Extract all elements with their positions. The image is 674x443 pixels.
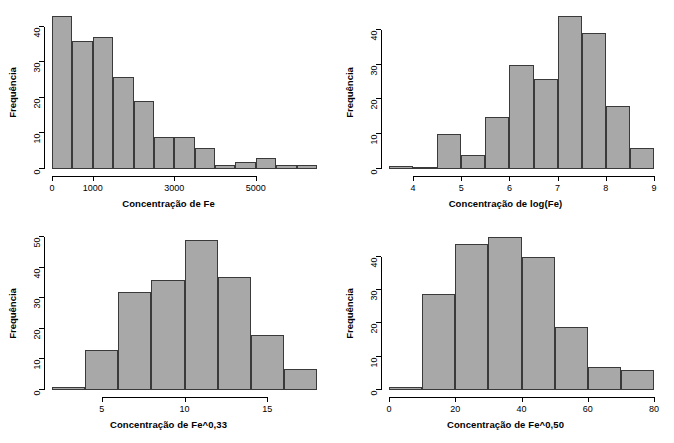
y-axis-tick-label: 0 [33,170,42,175]
y-axis-title: Frequência [6,237,18,390]
y-axis-tick-label: 0 [370,391,379,396]
x-axis-tick [102,397,103,402]
histogram-bar [93,37,113,169]
x-axis-tick [558,176,559,181]
histogram-bar [215,165,235,169]
histogram-bar [218,277,251,390]
histogram-bar [284,369,317,390]
histogram-bar [195,148,215,169]
x-axis: 020406080 [389,397,654,398]
y-axis-tick-label: 20 [370,100,379,110]
histogram-bar [185,240,218,390]
y-axis: 010203040 [381,16,382,169]
histogram-bar [534,79,558,169]
plot-area [389,16,654,169]
bar-series [52,16,317,169]
y-axis-title-text: Frequência [7,288,18,339]
x-axis-tick-label: 80 [649,405,659,414]
plot-area [52,237,317,390]
histogram-bar [389,387,422,390]
x-axis-tick [174,176,175,181]
y-axis-tick-label: 0 [33,391,42,396]
x-axis: 0100030005000 [52,176,317,177]
histogram-panel-top-left: 0102030400100030005000Concentração de Fe… [0,0,337,221]
histogram-bar [134,101,154,169]
y-axis-tick [39,267,44,268]
y-axis-tick-label: 50 [33,238,42,248]
x-axis: 456789 [389,176,654,177]
y-axis: 010203040 [44,16,45,169]
x-axis-tick-label: 10 [179,405,189,414]
histogram-panel-top-right: 010203040456789Concentração de log(Fe)Fr… [337,0,674,221]
histogram-bar [256,158,276,169]
x-axis-tick [93,176,94,181]
histogram-bar [555,327,588,390]
x-axis-title: Concentração de Fe [0,198,337,209]
y-axis-line [381,257,382,390]
histogram-bar [488,237,521,390]
y-axis: 01020304050 [44,237,45,390]
x-axis-tick [654,176,655,181]
histogram-bar [606,106,630,169]
x-axis-tick [389,397,390,402]
histogram-bar [485,117,509,169]
histogram-bar [52,387,85,390]
histogram-bar [455,244,488,390]
y-axis-tick-label: 30 [33,299,42,309]
histogram-bar [151,280,184,390]
plot-area [52,16,317,169]
x-axis-tick-label: 60 [583,405,593,414]
y-axis-title-text: Frequência [344,288,355,339]
x-axis-tick-label: 15 [262,405,272,414]
histogram-bar [297,165,317,169]
y-axis-tick-label: 10 [33,134,42,144]
y-axis-tick-label: 20 [33,98,42,108]
y-axis-tick-label: 30 [33,63,42,73]
x-axis-tick-label: 5 [459,184,464,193]
x-axis-tick-label: 6 [507,184,512,193]
x-axis-tick [52,176,53,181]
x-axis-tick-label: 20 [450,405,460,414]
x-axis-tick-label: 1000 [83,184,103,193]
x-axis-tick-label: 0 [386,405,391,414]
histogram-bar [154,137,174,169]
y-axis-tick-label: 40 [33,27,42,37]
bar-series [389,16,654,169]
histogram-bar [422,294,455,390]
histogram-bar [558,16,582,169]
histogram-bar [85,350,118,390]
x-axis-title: Concentração de Fe^0,50 [337,419,674,430]
x-axis-tick-label: 0 [49,184,54,193]
x-axis-tick-label: 40 [516,405,526,414]
x-axis-tick-label: 5000 [246,184,266,193]
y-axis-tick-label: 20 [370,324,379,334]
histogram-bar [522,257,555,390]
y-axis-title: Frequência [343,16,355,169]
x-axis-title: Concentração de Fe^0,33 [0,419,337,430]
histogram-bar [588,367,621,390]
x-axis-tick [413,176,414,181]
y-axis-title: Frequência [343,237,355,390]
y-axis-tick-label: 0 [370,170,379,175]
x-axis-title: Concentração de log(Fe) [337,198,674,209]
y-axis-tick-label: 20 [33,329,42,339]
histogram-bar [621,370,654,390]
histogram-figure: 0102030400100030005000Concentração de Fe… [0,0,674,443]
x-axis-tick [267,397,268,402]
x-axis-tick-label: 9 [651,184,656,193]
y-axis: 010203040 [381,237,382,390]
histogram-bar [174,137,194,169]
y-axis-title: Frequência [6,16,18,169]
histogram-panel-bottom-left: 0102030405051015Concentração de Fe^0,33F… [0,221,337,442]
histogram-bar [52,16,72,169]
x-axis-tick [461,176,462,181]
bar-series [389,237,654,390]
histogram-bar [276,165,296,169]
y-axis-tick-label: 10 [370,357,379,367]
y-axis-tick-label: 30 [370,65,379,75]
histogram-bar [461,155,485,169]
histogram-bar [118,292,151,390]
x-axis-tick [588,397,589,402]
histogram-bar [72,41,92,169]
histogram-bar [413,167,437,169]
